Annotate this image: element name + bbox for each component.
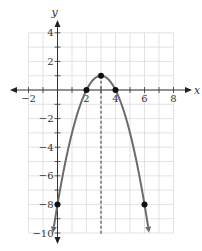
y-tick-label: −8 <box>39 199 54 210</box>
x-tick-label: 8 <box>170 93 176 104</box>
x-axis-right-arrow-icon <box>185 87 192 93</box>
x-axis-left-arrow-icon <box>10 87 17 93</box>
y-tick-label: −10 <box>32 228 53 239</box>
y-axis-label: y <box>50 6 58 19</box>
curve-arrow-icon <box>145 226 151 232</box>
data-point <box>113 87 119 93</box>
tick-labels: −2246842−2−4−6−8−10xy <box>21 6 201 239</box>
y-axis-up-arrow-icon <box>55 20 61 27</box>
x-tick-label: 6 <box>141 93 147 104</box>
y-tick-label: −4 <box>39 142 54 153</box>
y-tick-label: 2 <box>47 56 53 67</box>
x-axis-label: x <box>194 84 201 97</box>
y-tick-label: 4 <box>47 27 53 38</box>
x-tick-label: −2 <box>21 93 36 104</box>
data-point <box>98 73 104 79</box>
y-tick-label: −2 <box>39 113 54 124</box>
parabola-graph: −2246842−2−4−6−8−10xy <box>0 0 202 251</box>
data-point <box>84 87 90 93</box>
data-point <box>55 201 61 207</box>
y-axis-down-arrow-icon <box>55 237 61 244</box>
y-tick-label: −6 <box>39 170 54 181</box>
data-point <box>142 201 148 207</box>
